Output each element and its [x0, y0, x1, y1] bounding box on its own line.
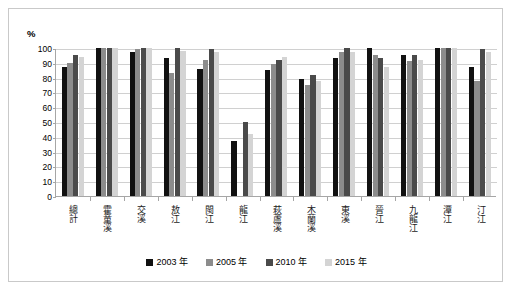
bar — [146, 48, 151, 196]
bar — [265, 70, 270, 196]
x-axis-separator — [192, 197, 193, 201]
legend-label: 2010 年 — [276, 257, 308, 267]
bar — [141, 48, 146, 196]
bar-group — [96, 48, 118, 196]
y-axis-tick-mark — [53, 79, 56, 80]
bar — [130, 52, 135, 196]
bar-group — [401, 48, 423, 196]
bar-group — [299, 48, 321, 196]
bar — [350, 52, 355, 196]
x-axis-separator — [463, 197, 464, 201]
bar — [452, 48, 457, 196]
plot-area: 0102030405060708090100 — [55, 49, 496, 197]
bar-group — [367, 48, 389, 196]
x-axis-separator — [293, 197, 294, 201]
y-axis-tick-mark — [53, 49, 56, 50]
bar — [180, 51, 185, 196]
y-axis-tick-label: 90 — [43, 59, 52, 68]
y-axis-tick-label: 20 — [43, 163, 52, 172]
bar — [135, 49, 140, 196]
y-axis-tick-mark — [53, 123, 56, 124]
bar — [299, 79, 304, 196]
bar — [367, 48, 372, 196]
x-axis-label: 晉江 — [370, 205, 384, 223]
bar — [214, 52, 219, 196]
bar — [282, 57, 287, 196]
bar — [271, 64, 276, 196]
x-axis-label: 交溪 — [133, 205, 147, 223]
legend-label: 2003 年 — [156, 257, 188, 267]
bar — [231, 141, 236, 196]
x-axis-separator — [226, 197, 227, 201]
x-axis-label: 汀江 — [472, 205, 486, 223]
x-axis-separator — [327, 197, 328, 201]
y-axis-tick-mark — [53, 93, 56, 94]
bar — [79, 57, 84, 196]
chart-legend: 2003 年2005 年2010 年2015 年 — [9, 257, 504, 267]
bar — [107, 48, 112, 196]
x-axis-separator — [90, 197, 91, 201]
bar — [401, 55, 406, 196]
y-axis-tick-mark — [53, 153, 56, 154]
x-axis-label: 潭江 — [438, 205, 452, 223]
bar — [373, 55, 378, 196]
y-axis-tick-label: 0 — [47, 193, 52, 202]
bar-group — [435, 48, 457, 196]
bar — [339, 52, 344, 196]
x-axis-label: 閩江 — [201, 205, 215, 223]
bar — [209, 49, 214, 196]
bar-group — [164, 48, 186, 196]
legend-swatch — [206, 259, 213, 266]
bar-group — [469, 48, 491, 196]
bar — [73, 55, 78, 196]
bar — [276, 60, 281, 196]
bar-group — [265, 48, 287, 196]
bar — [164, 58, 169, 196]
x-axis-label: 霍童溪 — [99, 205, 113, 232]
bar — [96, 48, 101, 196]
bar — [474, 81, 479, 196]
x-axis-label: 總計 — [65, 205, 79, 223]
legend-label: 2005 年 — [216, 257, 248, 267]
y-axis-tick-mark — [53, 64, 56, 65]
bar-group — [62, 48, 84, 196]
bar — [101, 48, 106, 196]
chart-frame: % 0102030405060708090100 總計霍童溪交溪敖江閩江龍江萩蘆… — [8, 8, 503, 282]
legend-swatch — [325, 259, 332, 266]
legend-item: 2015 年 — [325, 257, 367, 267]
x-axis-label: 木蘭溪 — [302, 205, 316, 232]
y-axis-tick-mark — [53, 182, 56, 183]
x-axis-separator — [395, 197, 396, 201]
y-axis-tick-label: 80 — [43, 74, 52, 83]
legend-label: 2015 年 — [335, 257, 367, 267]
y-axis-tick-label: 40 — [43, 133, 52, 142]
legend-item: 2005 年 — [206, 257, 248, 267]
bar — [62, 67, 67, 196]
bar — [248, 134, 253, 196]
y-axis-tick-mark — [53, 167, 56, 168]
bar-group — [333, 48, 355, 196]
bar — [112, 48, 117, 196]
bar — [418, 60, 423, 196]
bar — [441, 48, 446, 196]
bar — [67, 63, 72, 196]
y-axis-tick-mark — [53, 197, 56, 198]
chart-plot-wrapper: % 0102030405060708090100 總計霍童溪交溪敖江閩江龍江萩蘆… — [9, 9, 504, 283]
bar — [333, 58, 338, 196]
bar — [169, 73, 174, 196]
x-axis-label: 九龍江 — [404, 205, 418, 232]
bar — [316, 81, 321, 196]
bar — [197, 69, 202, 196]
y-axis-tick-mark — [53, 138, 56, 139]
y-axis-unit-label: % — [27, 29, 35, 39]
legend-item: 2003 年 — [146, 257, 188, 267]
x-axis-separator — [429, 197, 430, 201]
x-axis-separator — [260, 197, 261, 201]
y-axis-tick-label: 30 — [43, 148, 52, 157]
x-axis-label: 萩蘆溪 — [269, 205, 283, 232]
x-axis-label: 東溪 — [336, 205, 350, 223]
bar — [310, 75, 315, 196]
x-axis-label: 龍江 — [235, 205, 249, 223]
bar — [175, 48, 180, 196]
bar — [446, 48, 451, 196]
